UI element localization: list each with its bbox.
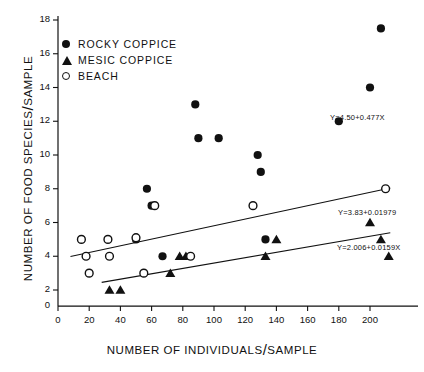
data-point-beach bbox=[140, 269, 148, 277]
open-circle-icon bbox=[62, 72, 78, 80]
legend-item-rocky-coppice: ROCKY COPPICE bbox=[62, 36, 177, 52]
data-point-beach bbox=[104, 235, 112, 243]
data-point-mesic-coppice bbox=[271, 235, 281, 244]
y-tick-label: 4 bbox=[30, 249, 50, 260]
y-tick-label: 14 bbox=[30, 81, 50, 92]
filled-circle-icon bbox=[62, 40, 78, 48]
data-point-rocky-coppice bbox=[158, 252, 166, 260]
data-point-rocky-coppice bbox=[191, 100, 199, 108]
y-tick-label: 6 bbox=[30, 216, 50, 227]
y-axis-title-slash: / bbox=[19, 106, 36, 111]
y-tick-label: 8 bbox=[30, 182, 50, 193]
legend-label: ROCKY COPPICE bbox=[78, 38, 177, 50]
y-tick-label: 12 bbox=[30, 114, 50, 125]
data-point-beach bbox=[85, 269, 93, 277]
x-tick-label: 100 bbox=[200, 314, 228, 325]
legend-label: MESIC COPPICE bbox=[78, 54, 173, 66]
data-point-beach bbox=[82, 252, 90, 260]
y-tick-label: 10 bbox=[30, 148, 50, 159]
legend-item-beach: BEACH bbox=[62, 68, 177, 84]
data-point-beach bbox=[382, 185, 390, 193]
x-axis-title-part1: NUMBER OF INDIVIDUALS bbox=[107, 344, 263, 356]
data-point-rocky-coppice bbox=[366, 83, 374, 91]
x-tick-label: 160 bbox=[294, 314, 322, 325]
data-point-beach bbox=[151, 202, 159, 210]
regression-equation-label: Y=4.50+0.477X bbox=[330, 113, 385, 122]
scatter-plot-figure: NUMBER OF FOOD SPECIES/SAMPLE NUMBER OF … bbox=[0, 0, 424, 372]
data-point-mesic-coppice bbox=[376, 235, 386, 244]
data-point-beach bbox=[106, 252, 114, 260]
legend-label: BEACH bbox=[78, 70, 119, 82]
x-tick-label: 200 bbox=[356, 314, 384, 325]
data-point-beach bbox=[132, 234, 140, 242]
data-point-beach bbox=[249, 202, 257, 210]
data-point-mesic-coppice bbox=[260, 252, 270, 261]
x-tick-label: 0 bbox=[44, 314, 72, 325]
data-point-beach bbox=[78, 235, 86, 243]
data-point-mesic-coppice bbox=[104, 285, 114, 294]
data-point-rocky-coppice bbox=[194, 134, 202, 142]
x-tick-label: 40 bbox=[106, 314, 134, 325]
data-point-rocky-coppice bbox=[261, 235, 269, 243]
data-point-rocky-coppice bbox=[215, 134, 223, 142]
regression-equation-label: Y=3.83+0.01979 bbox=[338, 208, 396, 217]
x-tick-label: 20 bbox=[75, 314, 103, 325]
x-tick-label: 120 bbox=[231, 314, 259, 325]
x-tick-label: 60 bbox=[138, 314, 166, 325]
y-axis-title: NUMBER OF FOOD SPECIES/SAMPLE bbox=[19, 24, 36, 314]
filled-triangle-icon bbox=[62, 56, 78, 65]
data-point-rocky-coppice bbox=[257, 168, 265, 176]
legend-item-mesic-coppice: MESIC COPPICE bbox=[62, 52, 177, 68]
y-tick-label-zero: 0 bbox=[30, 299, 50, 310]
y-tick-label: 18 bbox=[30, 13, 50, 24]
data-point-rocky-coppice bbox=[254, 151, 262, 159]
x-axis-title: NUMBER OF INDIVIDUALS/SAMPLE bbox=[0, 341, 424, 358]
regression-equation-label: Y=2.006+0.0159X bbox=[337, 243, 400, 252]
x-axis-title-part2: SAMPLE bbox=[267, 344, 317, 356]
y-tick-label: 16 bbox=[30, 47, 50, 58]
data-point-mesic-coppice bbox=[384, 252, 394, 261]
x-tick-label: 180 bbox=[325, 314, 353, 325]
legend: ROCKY COPPICE MESIC COPPICE BEACH bbox=[62, 36, 177, 84]
data-point-beach bbox=[187, 252, 195, 260]
data-point-rocky-coppice bbox=[143, 185, 151, 193]
data-point-mesic-coppice bbox=[115, 285, 125, 294]
data-point-mesic-coppice bbox=[365, 218, 375, 227]
x-tick-label: 80 bbox=[169, 314, 197, 325]
x-tick-label: 140 bbox=[262, 314, 290, 325]
data-point-rocky-coppice bbox=[377, 24, 385, 32]
y-tick-label: 2 bbox=[30, 283, 50, 294]
